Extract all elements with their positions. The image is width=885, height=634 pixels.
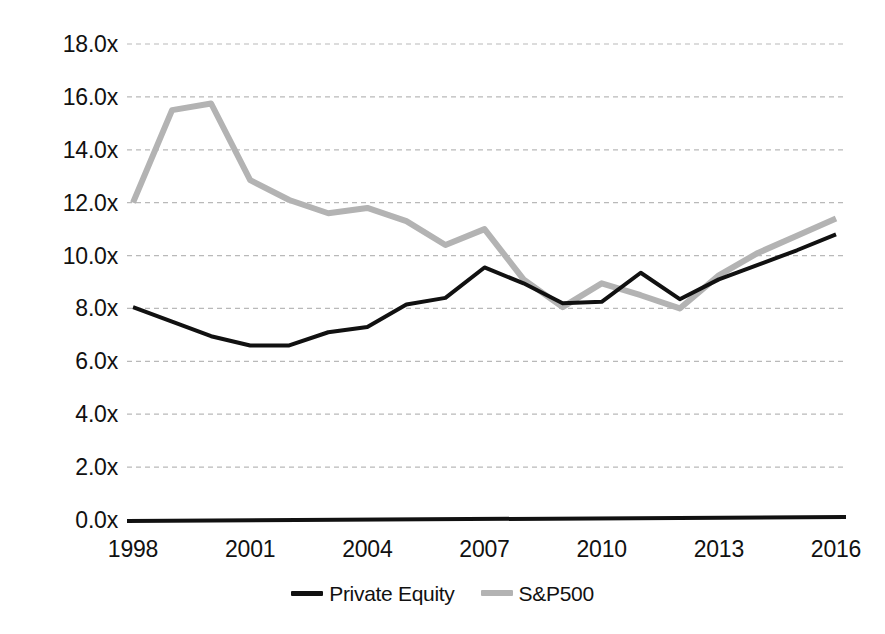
y-tick-label: 0.0x	[0, 509, 118, 532]
x-axis: 1998200120042007201020132016	[0, 536, 885, 570]
y-tick-label: 16.0x	[0, 86, 118, 109]
x-tick-label: 2013	[669, 536, 769, 562]
legend-swatch-icon	[291, 591, 323, 596]
x-tick-label: 2001	[200, 536, 300, 562]
legend-label: S&P500	[519, 583, 594, 604]
y-tick-label: 14.0x	[0, 139, 118, 162]
y-tick-label: 4.0x	[0, 403, 118, 426]
plot-area	[133, 44, 836, 520]
x-tick-label: 2016	[786, 536, 885, 562]
legend-swatch-icon	[481, 590, 513, 596]
y-tick-label: 2.0x	[0, 456, 118, 479]
plot-svg	[123, 26, 846, 546]
y-tick-label: 8.0x	[0, 297, 118, 320]
x-tick-label: 2004	[317, 536, 417, 562]
y-tick-label: 6.0x	[0, 350, 118, 373]
chart-legend: Private EquityS&P500	[0, 576, 885, 610]
legend-entry[interactable]: S&P500	[481, 583, 594, 604]
y-tick-label: 10.0x	[0, 245, 118, 268]
x-tick-label: 2007	[435, 536, 535, 562]
legend-label: Private Equity	[329, 583, 454, 604]
line-chart: 18.0x16.0x14.0x12.0x10.0x8.0x6.0x4.0x2.0…	[0, 0, 885, 634]
series-line-private-equity	[133, 234, 836, 345]
series-line-s-p500	[133, 104, 836, 309]
x-tick-label: 1998	[83, 536, 183, 562]
y-tick-label: 12.0x	[0, 192, 118, 215]
x-tick-label: 2010	[552, 536, 652, 562]
legend-entry[interactable]: Private Equity	[291, 583, 454, 604]
x-axis-line	[127, 517, 846, 521]
y-tick-label: 18.0x	[0, 33, 118, 56]
